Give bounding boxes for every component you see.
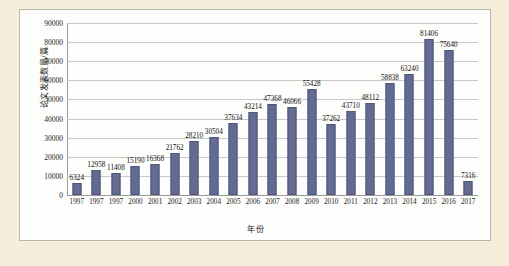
bar <box>72 183 81 195</box>
y-axis-tick-label: 40000 <box>44 114 63 123</box>
bar-value-label: 55428 <box>303 80 321 88</box>
bar <box>268 104 277 195</box>
bar-group: 114081997 <box>106 23 126 195</box>
bar <box>209 137 218 195</box>
bar-value-label: 47368 <box>264 95 282 103</box>
plot-area: 0100002000030000400005000060000700008000… <box>67 23 478 195</box>
x-axis-tick-label: 2014 <box>402 198 416 206</box>
y-axis-tick-label: 50000 <box>44 95 63 104</box>
bar-value-label: 16368 <box>146 155 164 163</box>
y-axis-tick-label: 90000 <box>44 19 63 28</box>
bar-value-label: 12958 <box>87 161 105 169</box>
bar-group: 814062015 <box>419 23 439 195</box>
bar <box>151 164 160 195</box>
bar <box>464 181 473 195</box>
bar <box>288 107 297 195</box>
x-axis-tick-label: 1997 <box>70 198 84 206</box>
bar-value-label: 46066 <box>283 98 301 106</box>
x-axis-tick-label: 2002 <box>167 198 181 206</box>
x-axis-tick-label: 2003 <box>187 198 201 206</box>
chart-panel: 论文发表数量/篇 0100002000030000400005000060000… <box>19 9 491 241</box>
bar-value-label: 43214 <box>244 103 262 111</box>
bar-value-label: 7316 <box>461 172 475 180</box>
bar-group: 372622010 <box>321 23 341 195</box>
chart-figure: 论文发表数量/篇 0100002000030000400005000060000… <box>0 0 509 266</box>
bar-group: 437102011 <box>341 23 361 195</box>
x-axis-tick-label: 2012 <box>363 198 377 206</box>
bar-group: 282102003 <box>184 23 204 195</box>
bar <box>425 39 434 195</box>
bar-value-label: 6324 <box>70 174 84 182</box>
bar <box>444 50 453 195</box>
bar-value-label: 48112 <box>361 94 379 102</box>
bar-group: 756402016 <box>439 23 459 195</box>
bar-value-label: 30504 <box>205 128 223 136</box>
x-axis-tick-label: 2011 <box>344 198 358 206</box>
y-axis-tick-label: 60000 <box>44 76 63 85</box>
bar <box>248 112 257 195</box>
bar-value-label: 37262 <box>322 115 340 123</box>
x-axis-tick-label: 2006 <box>246 198 260 206</box>
x-axis-tick-label: 1997 <box>109 198 123 206</box>
bar-value-label: 43710 <box>342 102 360 110</box>
bar-value-label: 37634 <box>224 114 242 122</box>
x-axis-tick-label: 2009 <box>304 198 318 206</box>
bar-group: 460662008 <box>282 23 302 195</box>
bar-group: 481122012 <box>361 23 381 195</box>
bar <box>111 173 120 195</box>
bar-group: 163682001 <box>145 23 165 195</box>
x-axis-tick-label: 1997 <box>89 198 103 206</box>
x-axis-tick-label: 2001 <box>148 198 162 206</box>
x-axis-tick-label: 2010 <box>324 198 338 206</box>
x-axis-tick-label: 2016 <box>441 198 455 206</box>
bar-group: 63241997 <box>67 23 87 195</box>
y-axis-tick-label: 80000 <box>44 38 63 47</box>
bar-value-label: 75640 <box>440 41 458 49</box>
bar-group: 217622002 <box>165 23 185 195</box>
y-axis-tick-label: 70000 <box>44 57 63 66</box>
bar-group: 305042004 <box>204 23 224 195</box>
x-axis-title: 年份 <box>20 223 492 234</box>
bar <box>170 153 179 195</box>
bar-group: 554282009 <box>302 23 322 195</box>
bar <box>92 170 101 195</box>
bar-group: 376342005 <box>224 23 244 195</box>
bar-group: 432142006 <box>243 23 263 195</box>
bar <box>131 166 140 195</box>
bar <box>307 89 316 195</box>
bar-value-label: 11408 <box>107 164 125 172</box>
y-axis-tick-label: 20000 <box>44 152 63 161</box>
bar-value-label: 81406 <box>420 30 438 38</box>
y-axis-tick-label: 0 <box>59 191 63 200</box>
y-axis-tick-label: 30000 <box>44 133 63 142</box>
bar-value-label: 63240 <box>401 65 419 73</box>
bar-group: 473682007 <box>263 23 283 195</box>
bar-group: 632402014 <box>400 23 420 195</box>
x-axis-tick-label: 2008 <box>285 198 299 206</box>
bar <box>385 83 394 195</box>
bar-group: 129581997 <box>87 23 107 195</box>
bar-value-label: 21762 <box>166 144 184 152</box>
x-axis-tick-label: 2015 <box>422 198 436 206</box>
bar <box>229 123 238 195</box>
bar-group: 151902000 <box>126 23 146 195</box>
gridline-0: 0 <box>67 195 478 196</box>
bar-group: 73162017 <box>458 23 478 195</box>
y-axis-tick-label: 10000 <box>44 171 63 180</box>
bar <box>366 103 375 195</box>
x-axis-tick-label: 2004 <box>207 198 221 206</box>
x-axis-tick-label: 2007 <box>265 198 279 206</box>
bar <box>405 74 414 195</box>
bar-value-label: 58838 <box>381 74 399 82</box>
x-axis-tick-label: 2017 <box>461 198 475 206</box>
bar-value-label: 15190 <box>127 157 145 165</box>
bar <box>190 141 199 195</box>
x-axis-tick-label: 2005 <box>226 198 240 206</box>
bar-value-label: 28210 <box>185 132 203 140</box>
x-axis-tick-label: 2000 <box>128 198 142 206</box>
bar <box>327 124 336 195</box>
bar <box>346 111 355 195</box>
x-axis-tick-label: 2013 <box>383 198 397 206</box>
bar-group: 588382013 <box>380 23 400 195</box>
